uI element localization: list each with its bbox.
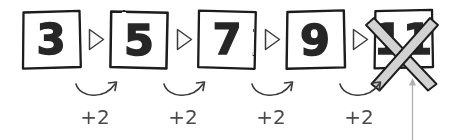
step-label-3: +2	[256, 105, 285, 129]
diagram-canvas: 3 5 7 9 11	[0, 0, 460, 140]
triangle-right-icon	[178, 30, 192, 50]
curved-arrow-path	[76, 84, 115, 95]
step-label-4: +2	[344, 105, 373, 129]
triangle-right-icon	[354, 30, 368, 50]
box-value: 3	[36, 15, 65, 64]
sequence-diagram: 3 5 7 9 11	[0, 0, 460, 140]
triangle-right-icon	[266, 30, 280, 50]
step-arrow-3	[252, 82, 293, 95]
step-label-2: +2	[168, 105, 197, 129]
step-arrow-2	[164, 82, 205, 95]
sequence-box-11-rejected: 11	[366, 10, 438, 91]
connector-triangle-1	[90, 30, 104, 50]
step-label-1: +2	[80, 105, 109, 129]
connector-triangle-2	[178, 30, 192, 50]
connector-triangle-4	[354, 30, 368, 50]
sequence-box-5: 5	[110, 11, 167, 68]
pointer-to-crossed-box	[409, 78, 416, 140]
curved-arrow-path	[252, 84, 291, 95]
connector-triangle-3	[266, 30, 280, 50]
box-value: 5	[124, 15, 154, 65]
box-value: 9	[300, 15, 330, 65]
step-arrow-1	[76, 82, 117, 95]
pointer-arrowhead-icon	[409, 78, 416, 86]
curved-arrow-path	[164, 84, 203, 95]
sequence-box-3: 3	[23, 11, 81, 69]
sequence-box-9: 9	[287, 10, 345, 68]
box-value: 7	[212, 15, 241, 64]
sequence-box-7: 7	[198, 11, 256, 69]
triangle-right-icon	[90, 30, 104, 50]
